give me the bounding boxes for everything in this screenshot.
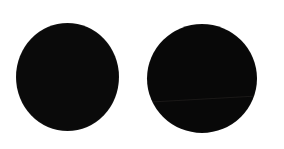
image-canvas <box>0 0 284 149</box>
faint-diagonal-seam <box>147 95 257 103</box>
shape-layer <box>0 0 284 149</box>
black-circle-left <box>16 23 119 131</box>
black-circle-right <box>147 24 257 133</box>
